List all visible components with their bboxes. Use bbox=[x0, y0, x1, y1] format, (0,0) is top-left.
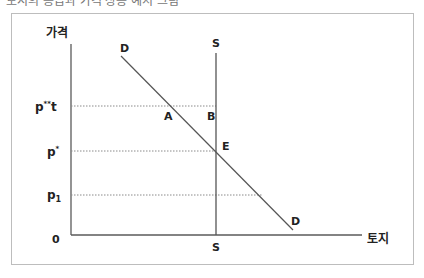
point-a-label: A bbox=[164, 110, 173, 123]
point-b-label: B bbox=[207, 110, 215, 123]
demand-curve bbox=[121, 56, 293, 230]
price-label-pstar: p* bbox=[47, 145, 60, 159]
demand-label-top: D bbox=[120, 42, 129, 55]
x-axis-label: 토지 bbox=[367, 231, 389, 246]
price-label-pt: p**t bbox=[35, 100, 57, 114]
supply-demand-diagram: 가격 토지 0 p**t p* p1 D D S S A B E bbox=[0, 0, 424, 278]
demand-label-bottom: D bbox=[291, 215, 300, 228]
supply-label-top: S bbox=[212, 37, 220, 50]
price-label-p1: p1 bbox=[47, 188, 62, 204]
point-e-label: E bbox=[222, 140, 230, 153]
y-axis-label: 가격 bbox=[46, 25, 68, 40]
origin-label: 0 bbox=[52, 233, 60, 246]
supply-label-bottom: S bbox=[212, 241, 220, 254]
